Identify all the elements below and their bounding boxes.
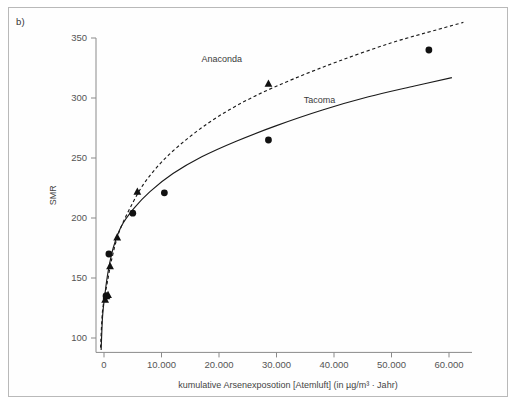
- x-axis-group: 010.00020.00030.00040.00050.00060.000: [96, 352, 472, 370]
- y-tick-label: 300: [71, 92, 87, 103]
- x-axis-ticks: [104, 352, 449, 357]
- series-label-tacoma: Tacoma: [304, 95, 336, 105]
- data-point-tacoma: [129, 210, 136, 217]
- series-label-anaconda: Anaconda: [202, 54, 243, 64]
- x-tick-label: 30.000: [262, 359, 291, 370]
- series-annotations: AnacondaTacoma: [202, 54, 336, 105]
- fit-curve-anaconda: [101, 22, 464, 347]
- x-tick-label: 60.000: [434, 359, 463, 370]
- x-tick-label: 50.000: [377, 359, 406, 370]
- y-axis-group: 100150200250300350: [71, 32, 96, 352]
- y-tick-label: 250: [71, 152, 87, 163]
- x-axis-title: kumulative Arsenexposotion [Atemluft] (i…: [178, 380, 397, 390]
- data-point-anaconda: [113, 233, 121, 240]
- y-axis-tick-labels: 100150200250300350: [71, 32, 87, 343]
- y-tick-label: 150: [71, 272, 87, 283]
- data-point-tacoma: [161, 189, 168, 196]
- data-point-anaconda: [265, 80, 273, 87]
- fit-curve-tacoma: [101, 78, 452, 350]
- data-point-tacoma: [425, 47, 432, 54]
- data-point-markers: [101, 47, 432, 303]
- y-tick-label: 350: [71, 32, 87, 43]
- y-tick-label: 100: [71, 332, 87, 343]
- y-axis-title: SMR: [48, 185, 58, 206]
- y-tick-label: 200: [71, 212, 87, 223]
- data-point-tacoma: [105, 251, 112, 258]
- x-tick-label: 20.000: [204, 359, 233, 370]
- data-point-tacoma: [103, 293, 110, 300]
- data-point-anaconda: [106, 262, 114, 269]
- x-axis-tick-labels: 010.00020.00030.00040.00050.00060.000: [101, 359, 463, 370]
- fit-curves: [101, 22, 464, 350]
- data-point-anaconda: [133, 188, 141, 195]
- data-point-tacoma: [265, 137, 272, 144]
- x-tick-label: 0: [101, 359, 106, 370]
- y-axis-ticks: [91, 38, 96, 338]
- x-tick-label: 10.000: [147, 359, 176, 370]
- figure-panel: b) 100150200250300350 010.00020.00030.00…: [0, 0, 518, 407]
- x-tick-label: 40.000: [319, 359, 348, 370]
- chart-canvas: 100150200250300350 010.00020.00030.00040…: [0, 0, 518, 407]
